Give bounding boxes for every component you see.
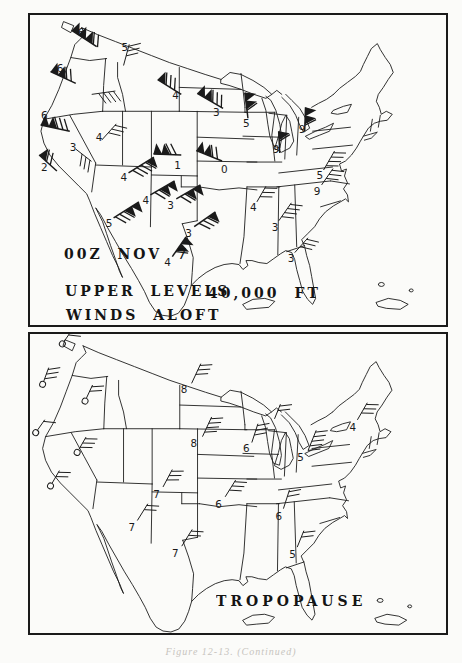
station-value: 6 (243, 442, 250, 454)
station-value: 8 (181, 383, 188, 395)
station-value: 3 (213, 106, 220, 118)
wind-barb (197, 84, 228, 108)
tropopause-map-panel: 88654767765 TROPOPAUSE (28, 332, 448, 635)
station-value: 6 (215, 498, 222, 510)
station-circle-barb (81, 380, 104, 408)
station-value: 8 (191, 437, 198, 449)
figure-caption: Figure 12-13. (Continued) (0, 646, 462, 657)
station-value: 9 (299, 123, 306, 135)
station-value: 2 (41, 161, 48, 173)
wind-barb (163, 466, 184, 492)
map-winds-aloft-label: WINDS ALOFT (66, 307, 221, 324)
map-tropopause-label: TROPOPAUSE (216, 593, 366, 610)
station-value: 3 (70, 141, 77, 153)
station-value: 7 (153, 488, 160, 500)
wind-barb (92, 90, 121, 105)
wind-barb (279, 131, 291, 153)
station-value: 9 (314, 185, 321, 197)
station-circle-barb (39, 363, 60, 391)
station-value: 0 (221, 163, 228, 175)
station-value: 6 (78, 26, 85, 38)
station-value: 5 (289, 548, 296, 560)
wind-barb (202, 413, 223, 441)
wind-barb (182, 526, 204, 552)
winds-aloft-map-panel: 6564356432544310995943334 00Z NOV 7 UPPE… (28, 13, 448, 327)
station-value: 7 (172, 547, 179, 559)
station-value: 7 (128, 521, 135, 533)
wind-barb (283, 486, 301, 512)
wind-barb (297, 527, 315, 551)
wind-barb (275, 401, 292, 423)
station-value: 4 (142, 194, 149, 206)
wind-barb (225, 477, 247, 503)
wind-barb (357, 399, 378, 425)
winds-aloft-map: 6564356432544310995943334 (30, 15, 446, 325)
tropopause-map: 88654767765 (30, 334, 446, 633)
station-value: 5 (317, 169, 324, 181)
station-value: 6 (275, 510, 282, 522)
wind-barb (129, 157, 160, 182)
station-value: 3 (288, 252, 295, 264)
map-altitude-label: 40,000 FT (208, 285, 321, 302)
wind-barb (192, 360, 213, 388)
station-value: 4 (121, 171, 128, 183)
station-value: 4 (172, 89, 179, 101)
station-value: 4 (96, 131, 103, 143)
wind-barb (194, 212, 221, 236)
station-value: 3 (185, 227, 192, 239)
wind-barb (114, 202, 145, 227)
wind-barb (176, 185, 206, 208)
wind-barb (279, 200, 303, 227)
wind-barb (305, 107, 317, 131)
map-time-label: 00Z NOV 7 (64, 246, 190, 263)
station-value: 5 (297, 451, 304, 463)
station-value: 5 (122, 41, 129, 53)
scanned-figure-page: 6564356432544310995943334 00Z NOV 7 UPPE… (0, 0, 462, 663)
wind-barb (150, 181, 180, 204)
station-value: 5 (106, 217, 113, 229)
wind-barb (153, 143, 181, 155)
station-circle-barb (73, 432, 97, 460)
station-value: 3 (167, 199, 174, 211)
wind-barb (196, 140, 226, 161)
station-value: 4 (350, 421, 357, 433)
station-value: 3 (272, 221, 279, 233)
station-value: 6 (57, 62, 64, 74)
station-value: 6 (41, 109, 48, 121)
map-upper-levels-label: UPPER LEVELS (65, 283, 230, 300)
station-value: 9 (273, 143, 280, 155)
station-value: 1 (174, 159, 181, 171)
wind-barb (137, 500, 159, 526)
wind-barb (102, 121, 127, 148)
station-value: 4 (250, 201, 257, 213)
station-circle-barb (32, 415, 56, 442)
station-value: 5 (243, 117, 250, 129)
